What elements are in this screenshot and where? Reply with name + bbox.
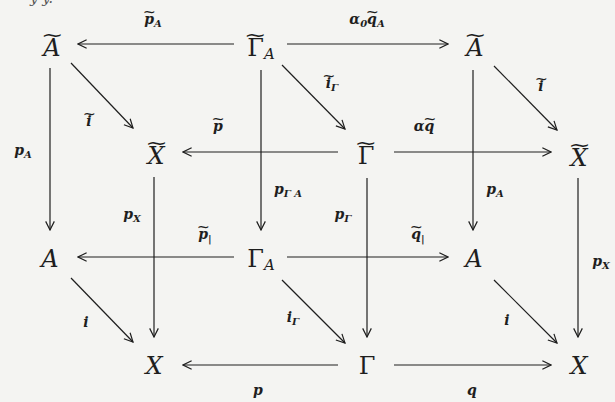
node-A-right: A [465,245,482,273]
label-p-A-right: pA [486,181,504,199]
node-Gamma: Γ [359,352,376,380]
label-alpha-q-tilde: αq [414,118,435,134]
label-i-right: i [504,312,509,328]
node-GammaA-tilde: ΓA [247,34,275,63]
label-p-GammaA: pΓ A [274,181,302,199]
node-A-left: A [41,245,58,273]
node-X-tilde-right: X [570,144,587,172]
label-i-tilde-right: i [538,78,543,94]
label-q-restricted-tilde: q| [411,226,424,244]
label-p-bottom: p [253,382,263,398]
arrow-i-tilde-left [71,63,133,128]
node-X-left: X [145,352,162,380]
label-p-tilde: p [213,118,223,134]
node-Gamma-tilde: Γ [358,142,375,170]
node-A-tilde-top-right: A [466,34,483,62]
label-p-Gamma: pΓ [335,206,352,224]
label-q-bottom: q [467,382,477,398]
label-alpha0-qA-tilde: α0qA [349,11,384,29]
label-p-A-tilde: pA [144,11,162,29]
label-i-tilde-left: i [86,113,91,129]
label-p-A-left: pA [14,142,32,160]
label-p-X-left: pX [123,206,141,224]
label-p-restricted-tilde: p| [198,226,211,244]
label-i-left: i [83,314,88,330]
label-i-Gamma: iΓ [287,309,299,327]
node-GammaA: ΓA [247,245,275,274]
label-p-X-right: pX [592,253,610,271]
node-X-tilde-left: X [147,142,164,170]
arrow-i-left [71,278,133,342]
node-A-tilde-top-left: A [43,34,60,62]
arrows-layer [0,0,615,402]
node-X-right: X [570,352,587,380]
label-i-Gamma-tilde: iΓ [326,75,338,93]
